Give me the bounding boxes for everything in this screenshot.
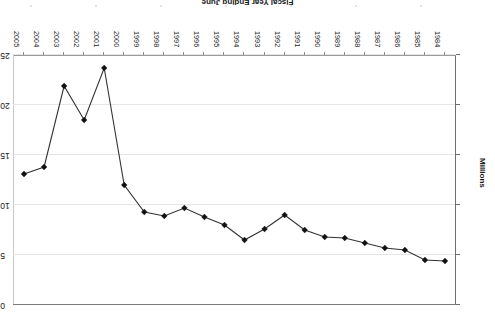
- data-point-marker: [161, 213, 167, 219]
- data-point-marker: [362, 240, 368, 246]
- chart-screenshot: 0510152025 19841985198619871988198919901…: [0, 0, 495, 333]
- data-point-marker: [181, 205, 187, 211]
- data-point-marker: [342, 235, 348, 241]
- data-point-marker: [322, 234, 328, 240]
- data-point-marker: [41, 164, 47, 170]
- data-point-marker: [402, 247, 408, 253]
- data-point-marker: [382, 245, 388, 251]
- data-point-marker: [202, 214, 208, 220]
- rotated-figure-container: 0510152025 19841985198619871988198919901…: [0, 0, 495, 333]
- data-point-marker: [422, 257, 428, 263]
- data-point-marker: [21, 171, 27, 177]
- series-line: [24, 68, 445, 261]
- data-series-layer: [0, 0, 495, 333]
- data-point-marker: [442, 258, 448, 264]
- data-point-marker: [101, 65, 107, 71]
- data-point-marker: [81, 117, 87, 123]
- data-point-marker: [61, 83, 67, 89]
- series-markers: [21, 65, 448, 264]
- chart-figure: 0510152025 19841985198619871988198919901…: [0, 0, 495, 333]
